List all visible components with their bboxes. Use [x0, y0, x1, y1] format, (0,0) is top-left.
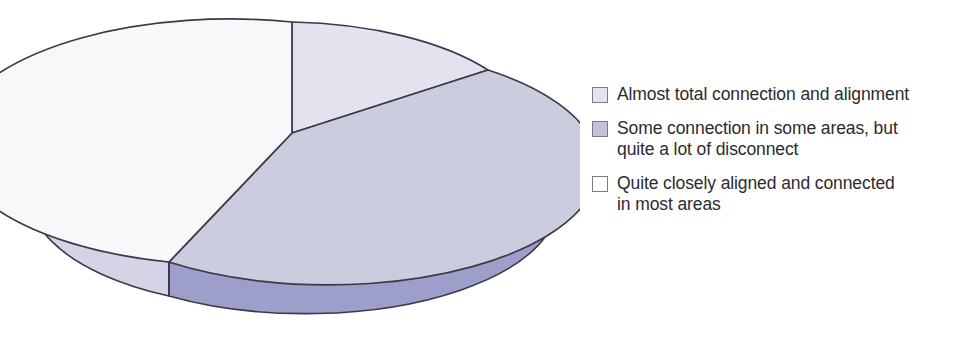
legend-label-1: Almost total connection and alignment [617, 84, 909, 105]
legend-label-2: Some connection in some areas, but quite… [617, 118, 898, 160]
legend-label-3: Quite closely aligned and connected in m… [617, 173, 895, 215]
legend-label-2-line2: quite a lot of disconnect [617, 139, 798, 159]
legend-item-1[interactable]: Almost total connection and alignment [592, 84, 967, 105]
legend-swatch-2 [592, 121, 608, 137]
pie-chart-graphic [0, 0, 580, 347]
legend-item-2[interactable]: Some connection in some areas, but quite… [592, 118, 967, 160]
legend-swatch-1 [592, 87, 608, 103]
legend-label-3-line1: Quite closely aligned and connected [617, 173, 895, 193]
legend-label-1-line1: Almost total connection and alignment [617, 84, 909, 104]
legend-label-2-line1: Some connection in some areas, but [617, 118, 898, 138]
legend-label-3-line2: in most areas [617, 194, 721, 214]
legend-swatch-3 [592, 176, 608, 192]
legend-item-3[interactable]: Quite closely aligned and connected in m… [592, 173, 967, 215]
pie-chart-figure: Almost total connection and alignment So… [0, 0, 967, 347]
chart-legend: Almost total connection and alignment So… [592, 84, 967, 228]
